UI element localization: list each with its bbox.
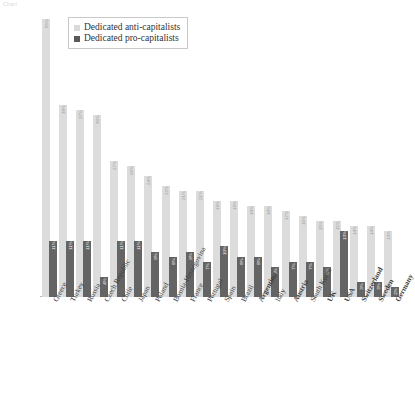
bar-value-label: 7% (204, 263, 209, 270)
plot-area: 55%11%38%11%37%11%36%4%27%11%26%11%24%9%… (40, 14, 400, 297)
bar-value-label: 14% (352, 226, 357, 235)
bar-value-label: 15% (334, 221, 339, 230)
bar-value-label: 19% (214, 201, 219, 210)
chart-legend: Dedicated anti-capitalists Dedicated pro… (68, 17, 188, 49)
bar-value-label: 4% (101, 278, 106, 285)
bar-value-label: 19% (232, 201, 237, 210)
legend-label-anti: Dedicated anti-capitalists (84, 22, 180, 33)
bar-value-label: 26% (129, 166, 134, 175)
bar-group: 16%7% (299, 14, 314, 297)
x-axis-labels: GreeceTurkeyRussiaCzech RepublicChileJap… (40, 299, 400, 399)
legend-swatch-anti-icon (74, 25, 80, 31)
bar-group: 24%9% (144, 14, 159, 297)
bar-group: 26%11% (127, 14, 142, 297)
bar-value-label: 8% (239, 258, 244, 265)
bar-value-label: 3% (359, 283, 364, 290)
bar-group: 55%11% (42, 14, 57, 297)
bar-value-label: 11% (50, 242, 55, 251)
bar-value-label: 13% (386, 231, 391, 240)
bar-group: 18%6% (264, 14, 279, 297)
bar-value-label: 11% (119, 242, 124, 251)
legend-swatch-pro-icon (74, 36, 80, 42)
bar-value-label: 13% (341, 231, 346, 240)
legend-label-pro: Dedicated pro-capitalists (84, 33, 179, 44)
bar-value-label: 18% (266, 206, 271, 215)
bar-value-label: 15% (317, 221, 322, 230)
bar-value-label: 18% (249, 206, 254, 215)
bar-value-label: 16% (300, 216, 305, 225)
bar-value-label: 11% (84, 242, 89, 251)
bar-group: 13%2% (384, 14, 399, 297)
legend-item-anti: Dedicated anti-capitalists (74, 22, 180, 33)
bar-group: 21%9% (179, 14, 194, 297)
bar-group: 19%8% (230, 14, 245, 297)
bar-value-label: 55% (43, 19, 48, 28)
bar-value-label: 11% (67, 242, 72, 251)
bar-value-label: 17% (283, 211, 288, 220)
bar-value-label: 10% (221, 246, 226, 255)
bar-value-label: 27% (112, 161, 117, 170)
bar-value-label: 22% (163, 186, 168, 195)
bar-group: 38%11% (59, 14, 74, 297)
bar-anti-czech-republic: 36% (93, 115, 101, 297)
bar-value-label: 36% (94, 115, 99, 124)
bar-group: 22%8% (162, 14, 177, 297)
bar-value-label: 14% (369, 226, 374, 235)
corner-note: Chart (3, 1, 17, 7)
bar-value-label: 8% (256, 258, 261, 265)
bar-value-label: 11% (136, 242, 141, 251)
legend-item-pro: Dedicated pro-capitalists (74, 33, 180, 44)
bar-group: 14%3% (367, 14, 382, 297)
bar-value-label: 24% (146, 176, 151, 185)
bar-value-label: 7% (290, 263, 295, 270)
bar-group: 15%13% (333, 14, 348, 297)
bar-value-label: 37% (77, 110, 82, 119)
bar-group: 18%8% (247, 14, 262, 297)
bar-group: 14%3% (350, 14, 365, 297)
bar-group: 36%4% (93, 14, 108, 297)
bar-group: 27%11% (110, 14, 125, 297)
bar-group: 17%7% (282, 14, 297, 297)
bar-group: 19%10% (213, 14, 228, 297)
bar-value-label: 21% (197, 191, 202, 200)
bar-value-label: 9% (153, 253, 158, 260)
bar-value-label: 7% (307, 263, 312, 270)
bar-group: 37%11% (76, 14, 91, 297)
bar-value-label: 21% (180, 191, 185, 200)
bar-value-label: 38% (60, 105, 65, 114)
bar-group: 15%6% (316, 14, 331, 297)
bar-pro-usa: 13% (340, 231, 348, 297)
bar-value-label: 8% (170, 258, 175, 265)
